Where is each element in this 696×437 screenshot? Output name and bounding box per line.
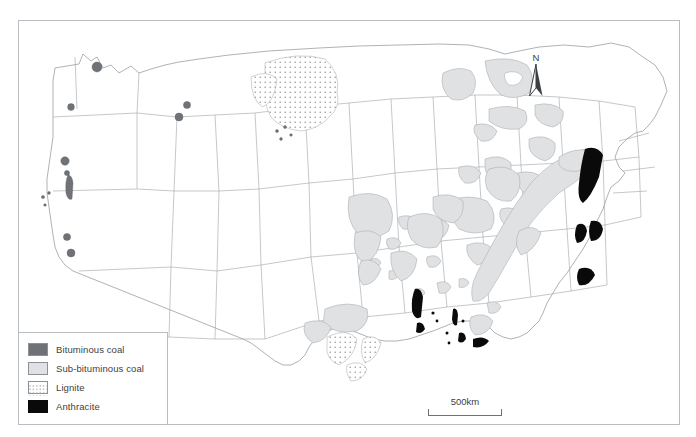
scale-bar-label: 500km	[428, 396, 502, 407]
legend-label-anthracite: Anthracite	[56, 401, 100, 412]
anthracite-swatch	[28, 400, 48, 413]
north-arrow-icon	[528, 63, 544, 97]
scale-bar-line	[428, 408, 502, 416]
legend-item-bituminous: Bituminous coal	[28, 340, 167, 359]
legend-label-sub-bituminous: Sub-bituminous coal	[56, 363, 144, 374]
map-legend: Bituminous coal Sub-bituminous coal Lign…	[18, 332, 168, 425]
legend-item-anthracite: Anthracite	[28, 397, 167, 416]
legend-label-bituminous: Bituminous coal	[56, 344, 125, 355]
north-arrow: N	[523, 52, 549, 101]
legend-item-lignite: Lignite	[28, 378, 167, 397]
legend-label-lignite: Lignite	[56, 382, 85, 393]
bituminous-swatch	[28, 343, 48, 356]
north-label: N	[523, 52, 549, 63]
lignite-pattern-icon	[29, 385, 47, 396]
sub-bituminous-swatch	[28, 362, 48, 375]
scale-bar: 500km	[428, 396, 502, 416]
legend-item-sub-bituminous: Sub-bituminous coal	[28, 359, 167, 378]
lignite-swatch	[28, 381, 48, 394]
map-figure: Bituminous coal Sub-bituminous coal Lign…	[0, 0, 696, 437]
